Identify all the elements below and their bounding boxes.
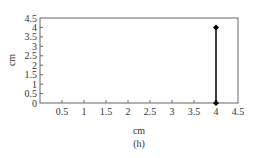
x-tick-label: 3: [170, 106, 175, 117]
x-tick-label: 0.5: [56, 106, 69, 117]
x-tick-label: 2.5: [144, 106, 157, 117]
x-tick-label: 4: [214, 106, 219, 117]
x-tick-label: 2: [126, 106, 131, 117]
x-tick-label: 4.5: [232, 106, 245, 117]
y-tick-label: 4.5: [25, 13, 38, 24]
y-tick-label: 1.5: [25, 69, 38, 80]
plot-area: [40, 18, 238, 103]
x-tick-label: 1.5: [100, 106, 113, 117]
chart: 0.511.522.533.544.5 00.511.522.533.544.5…: [0, 0, 254, 158]
y-tick-label: 1: [32, 79, 37, 90]
x-tick-label: 1: [82, 106, 87, 117]
x-tick-label: 3.5: [188, 106, 201, 117]
figure-caption: (h): [133, 138, 145, 150]
y-tick-label: 3.5: [25, 31, 38, 42]
y-tick-label: 2: [32, 60, 37, 71]
y-tick-label: 0.5: [25, 88, 38, 99]
y-axis-label: cm: [6, 54, 17, 66]
x-axis-label: cm: [133, 125, 145, 136]
y-tick-label: 3: [32, 41, 37, 52]
y-tick-label: 2.5: [25, 50, 38, 61]
y-tick-label: 0: [32, 98, 37, 109]
y-tick-label: 4: [32, 22, 37, 33]
